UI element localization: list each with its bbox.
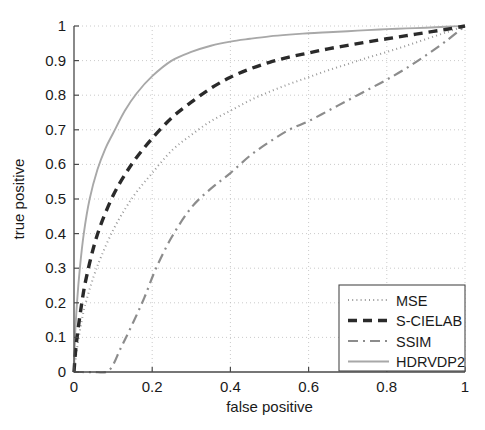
x-tick-label: 1	[461, 378, 469, 395]
y-tick-label: 0.2	[45, 294, 66, 311]
y-tick-label: 0.5	[45, 190, 66, 207]
y-tick-label: 0.4	[45, 225, 66, 242]
roc-chart-figure: 00.20.40.60.81 00.10.20.30.40.50.60.70.8…	[0, 0, 485, 430]
y-axis-label: true positive	[10, 159, 27, 240]
x-tick-label: 0.4	[220, 378, 241, 395]
y-tick-label: 0.9	[45, 52, 66, 69]
x-axis-label: false positive	[226, 398, 313, 415]
x-tick-label: 0.6	[298, 378, 319, 395]
x-tick-label: 0	[70, 378, 78, 395]
y-tick-label: 0.6	[45, 155, 66, 172]
y-tick-label: 0.7	[45, 121, 66, 138]
chart-canvas: 00.20.40.60.81 00.10.20.30.40.50.60.70.8…	[0, 0, 485, 430]
y-tick-label: 1	[58, 17, 66, 34]
y-tick-label: 0.3	[45, 259, 66, 276]
y-tick-label: 0.8	[45, 86, 66, 103]
legend-label-mse: MSE	[396, 293, 428, 309]
legend-label-ssim: SSIM	[396, 334, 431, 350]
legend-label-s-cielab: S-CIELAB	[396, 313, 462, 329]
x-tick-label: 0.2	[142, 378, 163, 395]
legend-label-hdrvdp2: HDRVDP2	[396, 354, 465, 370]
y-tick-label: 0	[58, 363, 66, 380]
x-tick-label: 0.8	[376, 378, 397, 395]
y-tick-label: 0.1	[45, 328, 66, 345]
chart-legend[interactable]: MSES-CIELABSSIMHDRVDP2	[339, 285, 465, 371]
